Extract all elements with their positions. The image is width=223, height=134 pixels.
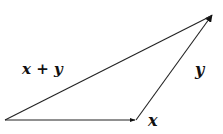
label-x: x — [147, 111, 158, 130]
vector-diagram: x + y y x — [0, 0, 223, 134]
label-sum: x + y — [21, 60, 64, 78]
label-y: y — [194, 60, 206, 79]
